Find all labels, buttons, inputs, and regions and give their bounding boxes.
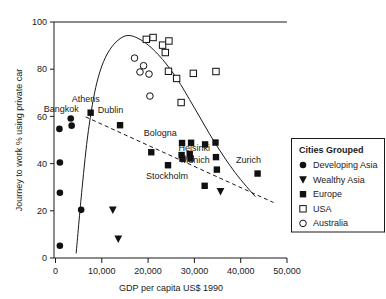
y-tick-label: 80 xyxy=(37,64,47,74)
y-tick-label: 40 xyxy=(37,159,47,169)
data-point xyxy=(159,42,165,48)
city-label-bologna: Bologna xyxy=(144,128,177,138)
data-point xyxy=(114,235,122,242)
data-point xyxy=(212,139,218,145)
data-point xyxy=(148,149,154,155)
x-axis-ticks: 0 10,000 20,000 30,000 40,000 50,000 xyxy=(53,258,301,276)
data-point xyxy=(150,34,156,40)
data-point xyxy=(146,71,153,78)
data-point xyxy=(140,62,147,69)
data-point xyxy=(137,69,144,76)
legend-item-usa[interactable]: USA xyxy=(300,204,332,214)
data-point xyxy=(78,207,85,214)
data-point xyxy=(178,99,184,105)
data-point xyxy=(165,68,171,74)
data-point xyxy=(162,49,168,55)
data-point xyxy=(109,207,117,214)
data-point xyxy=(201,183,207,189)
data-point xyxy=(117,122,123,128)
x-axis-title: GDP per capita US$ 1990 xyxy=(119,283,223,293)
axes-group xyxy=(54,22,287,258)
data-point xyxy=(213,68,219,74)
legend-item-label: USA xyxy=(313,204,332,214)
city-annotations-layer: AthensBangkokDublinBolognaHelsinkiMunich… xyxy=(44,94,261,181)
data-point xyxy=(57,242,64,249)
series-developing-asia xyxy=(56,115,84,249)
data-point xyxy=(67,115,74,122)
data-point xyxy=(165,162,171,168)
open-square-icon xyxy=(300,206,306,212)
series-usa xyxy=(143,34,219,105)
y-axis-title: Journey to work % using private car xyxy=(14,69,24,212)
y-axis-ticks: 100 80 60 40 20 0 xyxy=(32,17,54,263)
city-label-bangkok: Bangkok xyxy=(44,104,80,114)
data-point xyxy=(173,75,179,81)
series-wealthy-asia xyxy=(109,188,224,243)
city-label-athens: Athens xyxy=(72,94,101,104)
series-australia xyxy=(131,55,153,100)
x-tick-label: 50,000 xyxy=(273,266,301,276)
data-point xyxy=(87,109,93,115)
y-tick-label: 100 xyxy=(32,17,47,27)
legend-item-label: Wealthy Asia xyxy=(313,175,365,185)
data-point xyxy=(217,188,225,195)
chart-canvas: 100 80 60 40 20 0 0 10,000 20,000 30,000… xyxy=(0,0,386,299)
data-point xyxy=(56,126,63,133)
x-tick-label: 40,000 xyxy=(227,266,255,276)
filled-circle-icon xyxy=(300,162,307,169)
open-circle-icon xyxy=(300,220,307,227)
x-tick-label: 20,000 xyxy=(134,266,162,276)
data-point xyxy=(190,70,196,76)
data-point xyxy=(147,93,154,100)
x-tick-label: 0 xyxy=(53,266,58,276)
x-tick-label: 30,000 xyxy=(181,266,209,276)
data-point xyxy=(213,154,219,160)
data-point xyxy=(57,159,64,166)
data-point xyxy=(68,122,75,129)
x-tick-label: 10,000 xyxy=(88,266,116,276)
legend-item-label: Europe xyxy=(313,189,342,199)
trend-lines-group xyxy=(76,35,273,253)
legend-item-label: Developing Asia xyxy=(313,160,378,170)
city-label-munich: Munich xyxy=(181,155,210,165)
legend: Cities Grouped Developing AsiaWealthy As… xyxy=(292,139,385,233)
data-point xyxy=(214,166,220,172)
city-label-helsinki: Helsinki xyxy=(178,143,210,153)
data-point xyxy=(166,38,172,44)
data-point xyxy=(254,170,260,176)
scatter-chart: 100 80 60 40 20 0 0 10,000 20,000 30,000… xyxy=(0,0,386,299)
filled-square-icon xyxy=(300,191,306,197)
city-label-stockholm: Stockholm xyxy=(146,171,188,181)
y-tick-label: 0 xyxy=(42,253,47,263)
legend-item-label: Australia xyxy=(313,218,348,228)
data-point xyxy=(131,55,138,62)
data-point xyxy=(143,36,149,42)
data-point xyxy=(57,189,64,196)
y-tick-label: 20 xyxy=(37,206,47,216)
city-label-dublin: Dublin xyxy=(98,105,124,115)
legend-title: Cities Grouped xyxy=(299,145,364,155)
city-label-zurich: Zurich xyxy=(236,155,261,165)
